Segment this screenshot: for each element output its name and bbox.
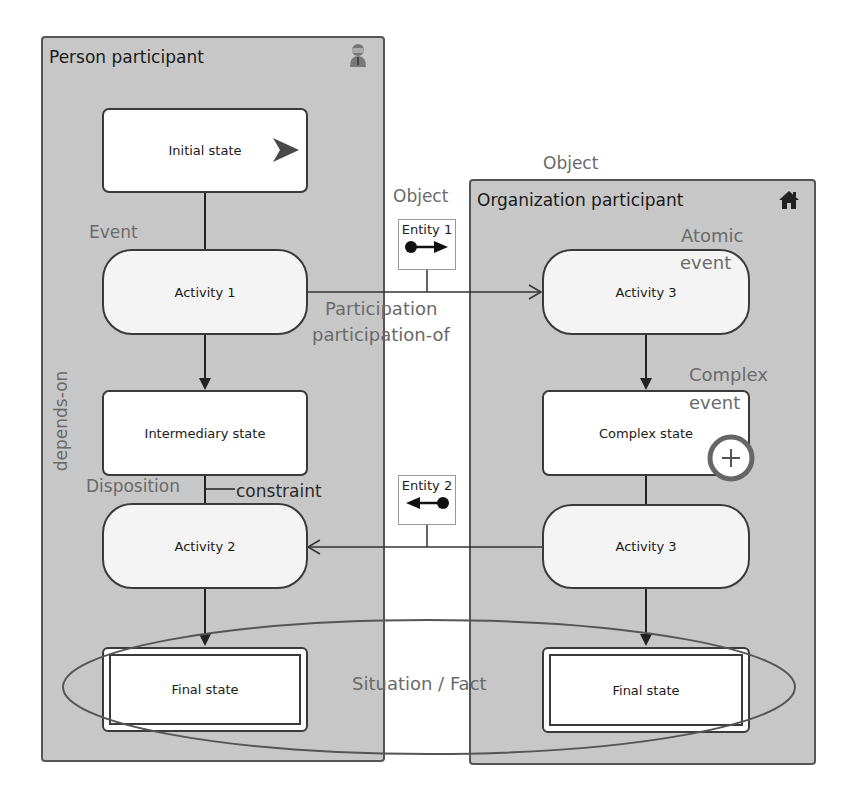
complex-event-annotation-line1: Complex (689, 366, 768, 385)
final-state-right-label: Final state (612, 683, 679, 698)
depends-on-annotation: depends-on (53, 371, 71, 472)
situation-fact-annotation: Situation / Fact (352, 675, 487, 694)
disposition-annotation: Disposition (86, 478, 180, 496)
participation-annotation: Participation (325, 300, 437, 319)
complex-event-annotation-line2: event (689, 394, 740, 413)
participation-of-annotation: participation-of (312, 326, 450, 345)
atomic-event-annotation-line2: event (680, 254, 731, 273)
event-annotation: Event (89, 224, 138, 242)
object-left-annotation: Object (393, 188, 448, 206)
atomic-event-annotation-line1: Atomic (681, 227, 744, 246)
constraint-annotation: constraint (236, 481, 322, 501)
final-state-left-label: Final state (171, 682, 238, 697)
object-top-annotation: Object (543, 155, 598, 173)
